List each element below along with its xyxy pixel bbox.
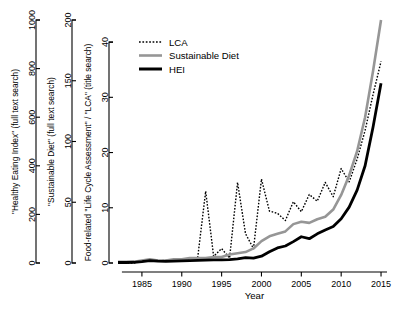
chart-container: 02004006008001000"Healthy Eating Index" … — [0, 0, 403, 310]
legend-label-lca: LCA — [169, 37, 188, 48]
lca-axis-tick-label: 40 — [100, 37, 110, 47]
series-lca — [118, 61, 381, 263]
hei-axis-tick-label: 600 — [27, 110, 37, 125]
legend: LCASustainable DietHEI — [139, 37, 239, 75]
hei-axis-tick-label: 200 — [27, 207, 37, 222]
hei-axis-tick-label: 800 — [27, 61, 37, 76]
x-axis: 1985199019952000200520102015Year — [122, 272, 391, 301]
sustainable-diet-axis-tick-label: 0 — [63, 260, 73, 265]
hei-axis-tick-label: 400 — [27, 158, 37, 173]
series-line — [118, 61, 381, 263]
lca-axis-tick-label: 20 — [100, 148, 110, 158]
x-axis-tick-label: 1985 — [132, 279, 152, 289]
sustainable-diet-axis-tick-label: 150 — [63, 73, 73, 88]
sustainable-diet-axis-title: "Sustainable Diet" (full text search) — [46, 77, 56, 206]
multi-axis-line-chart: 02004006008001000"Healthy Eating Index" … — [0, 0, 403, 310]
x-axis-tick-label: 1995 — [212, 279, 232, 289]
lca-axis-tick-label: 30 — [100, 92, 110, 102]
lca-axis-title: Food-related "Life Cycle Assessment" / "… — [83, 44, 93, 262]
legend-label-sustainable-diet: Sustainable Diet — [169, 50, 239, 61]
sustainable-diet-axis-tick-label: 50 — [63, 197, 73, 207]
x-axis-tick-label: 2010 — [331, 279, 351, 289]
hei-axis-tick-label: 1000 — [27, 10, 37, 30]
lca-axis-tick-label: 0 — [100, 260, 110, 265]
hei-axis-line — [36, 20, 40, 263]
x-axis-tick-label: 1990 — [172, 279, 192, 289]
sustainable-diet-axis-tick-label: 100 — [63, 134, 73, 149]
hei-axis: 02004006008001000"Healthy Eating Index" … — [10, 10, 40, 266]
legend-label-hei: HEI — [169, 64, 185, 75]
sustainable-diet-axis: 050100150200"Sustainable Diet" (full tex… — [46, 12, 76, 265]
hei-axis-title: "Healthy Eating Index" (full text search… — [10, 69, 20, 214]
lca-axis: 010203040Food-related "Life Cycle Assess… — [83, 37, 113, 265]
x-axis-tick-label: 2000 — [251, 279, 271, 289]
x-axis-tick-label: 2005 — [291, 279, 311, 289]
series-line — [118, 83, 381, 262]
sustainable-diet-axis-tick-label: 200 — [63, 12, 73, 27]
hei-axis-tick-label: 0 — [27, 260, 37, 265]
x-axis-title: Year — [245, 290, 265, 301]
lca-axis-tick-label: 10 — [100, 203, 110, 213]
series-hei — [118, 83, 381, 262]
x-axis-tick-label: 2015 — [371, 279, 391, 289]
